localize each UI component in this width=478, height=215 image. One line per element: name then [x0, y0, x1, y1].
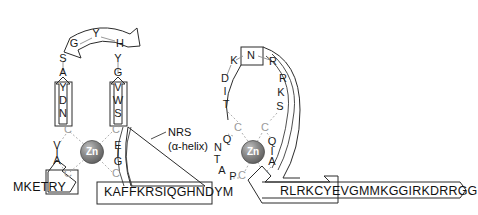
- residue-right-right-1: K: [277, 86, 285, 98]
- residue-left-arch-1: Y: [92, 27, 100, 39]
- left-helix-sequence: KAFFKRSIQGHNDYM: [104, 185, 233, 199]
- cysteine-left-3: C: [64, 167, 72, 179]
- residue-right-right-2: S: [276, 100, 283, 112]
- residue-left-rupper-0: Y: [114, 52, 122, 64]
- residue-left-arch-2: H: [116, 37, 124, 49]
- residue-left-rboxed-1: W: [113, 94, 124, 106]
- residue-right-linner-3: A: [218, 164, 226, 176]
- residue-left-upper-0: S: [59, 52, 66, 64]
- nrs-sublabel: (α-helix): [168, 140, 208, 152]
- residue-left-inner-2: A: [53, 154, 61, 166]
- zinc-finger-figure: G Y H S A Y D N Y G V W S: [0, 0, 478, 215]
- cysteine-left-4: C: [112, 167, 120, 179]
- residue-right-linner-4: P: [229, 170, 236, 182]
- residue-right-linner-0: Q: [223, 133, 232, 145]
- cysteine-right-1: C: [234, 121, 242, 133]
- cysteine-left-1: C: [64, 123, 72, 135]
- residue-left-rboxed-0: V: [114, 81, 122, 93]
- n-terminal-sequence: MKETRY: [13, 180, 67, 194]
- residue-right-right-0: R: [279, 72, 287, 84]
- residue-right-left-1: I: [223, 85, 226, 97]
- residue-right-rinner-2: A: [268, 155, 276, 167]
- residue-right-arch-1: N: [247, 49, 255, 61]
- residue-right-arch-0: K: [230, 54, 238, 66]
- residue-left-upper-1: A: [59, 66, 67, 78]
- cysteine-left-2: C: [112, 123, 120, 135]
- residue-left-boxed-1: D: [59, 94, 67, 106]
- residue-left-rupper-1: G: [114, 66, 123, 78]
- residue-right-left-0: D: [221, 72, 229, 84]
- residue-left-arch-0: G: [70, 37, 79, 49]
- cysteine-right-2: C: [261, 121, 269, 133]
- residue-right-linner-1: N: [214, 141, 222, 153]
- residue-left-rinner-2: G: [114, 155, 123, 167]
- residue-left-boxed-0: Y: [59, 81, 67, 93]
- zinc-label-right: Zn: [247, 146, 259, 157]
- c-terminal-sequence: RLRKCYEVGMMKGGIRKDRRGG: [280, 184, 477, 198]
- residue-left-rboxed-2: S: [114, 107, 121, 119]
- residue-right-left-2: T: [223, 98, 230, 110]
- residue-left-boxed-2: N: [59, 107, 67, 119]
- zinc-label-left: Zn: [86, 146, 98, 157]
- diagram-canvas: G Y H S A Y D N Y G V W S: [0, 0, 478, 215]
- nrs-label: NRS: [168, 126, 191, 138]
